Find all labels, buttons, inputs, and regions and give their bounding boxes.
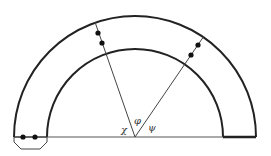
label-phi: φ xyxy=(134,115,141,126)
dot-bottom-left-2 xyxy=(32,134,37,139)
diagram-canvas: χ φ ψ xyxy=(0,0,271,156)
label-chi: χ xyxy=(120,124,128,135)
dot-right-ray-2 xyxy=(188,52,193,57)
dot-bottom-left-1 xyxy=(20,134,25,139)
dot-right-ray-1 xyxy=(195,42,200,47)
label-psi: ψ xyxy=(148,122,156,133)
bottom-left-box xyxy=(14,137,47,149)
left-ray xyxy=(95,22,135,137)
dot-left-ray-1 xyxy=(95,30,100,35)
right-ray xyxy=(135,36,204,137)
dot-left-ray-2 xyxy=(99,40,104,45)
